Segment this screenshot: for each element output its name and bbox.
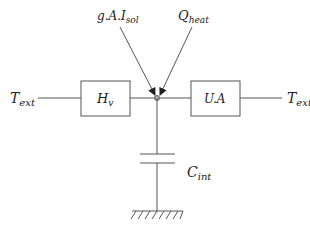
solar-gain-label: g.A.Isol <box>97 9 139 25</box>
t-ext-right-label: Text <box>287 90 310 108</box>
q-heat-label: Qheat <box>178 8 209 25</box>
ua-label: U.A <box>204 92 226 106</box>
q-heat-arrow <box>160 27 192 95</box>
t-ext-left-label: Text <box>10 90 36 108</box>
c-int-label: Cint <box>187 164 212 182</box>
ground-icon <box>131 211 183 219</box>
thermal-network-diagram: Text Hv U.A Text g.A.Isol Qheat Cint <box>0 0 310 232</box>
